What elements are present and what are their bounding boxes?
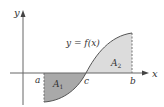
y-axis-label: y xyxy=(13,7,20,18)
x-axis-arrow-icon xyxy=(142,71,149,76)
region-a1 xyxy=(44,73,86,102)
y-axis-arrow-icon xyxy=(21,10,26,17)
area-diagram: y x y = f(x) a c b A1 A2 xyxy=(0,0,164,107)
point-a-label: a xyxy=(35,75,40,85)
point-b-label: b xyxy=(130,76,136,86)
x-axis-label: x xyxy=(152,68,158,79)
point-c-label: c xyxy=(84,76,89,86)
curve-label: y = f(x) xyxy=(65,38,100,48)
